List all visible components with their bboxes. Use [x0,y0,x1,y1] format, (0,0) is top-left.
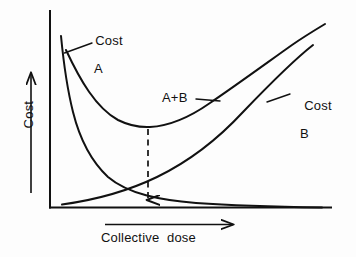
curve-label-cost-a-line2: A [94,62,123,75]
curve-label-cost-b-line1: Cost [304,98,332,113]
curve-label-a-plus-b: A+B [162,91,188,104]
curve-label-cost-b-line2: B [300,127,332,140]
leader-line-cost-b [267,94,290,102]
y-axis-title: Cost [22,85,35,145]
curve-label-cost-a: Cost A [80,21,123,102]
chart-figure: Cost A A+B Cost B Collective dose Cost [0,0,356,257]
x-axis-title: Collective dose [101,231,196,244]
curve-label-cost-a-line1: Cost [95,33,123,48]
curve-label-cost-b: Cost B [289,86,332,167]
